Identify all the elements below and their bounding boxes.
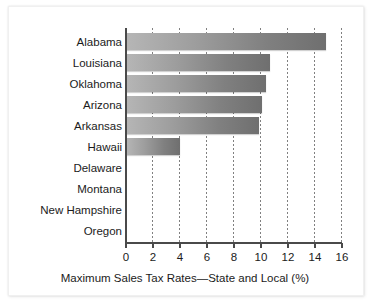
tick-label-2: 2	[141, 250, 165, 264]
category-label-oklahoma: Oklahoma	[6, 78, 122, 90]
tick-mark-12	[287, 243, 289, 248]
tick-label-6: 6	[195, 250, 219, 264]
gridline-16	[341, 28, 342, 242]
tick-label-10: 10	[249, 250, 273, 264]
tick-label-4: 4	[168, 250, 192, 264]
category-label-arkansas: Arkansas	[6, 120, 122, 132]
bar-chart: Alabama Louisiana Oklahoma Arizona Arkan…	[0, 0, 370, 307]
category-label-louisiana: Louisiana	[6, 57, 122, 69]
category-label-hawaii: Hawaii	[6, 141, 122, 153]
tick-mark-6	[206, 243, 208, 248]
category-label-new-hampshire: New Hampshire	[6, 204, 122, 216]
gridline-12	[287, 28, 288, 242]
tick-label-8: 8	[222, 250, 246, 264]
bar-hawaii	[126, 138, 180, 155]
tick-label-0: 0	[114, 250, 138, 264]
y-axis-line	[125, 28, 127, 243]
tick-label-16: 16	[330, 250, 354, 264]
chart-screenshot: Alabama Louisiana Oklahoma Arizona Arkan…	[0, 0, 370, 307]
tick-mark-0	[125, 243, 127, 248]
tick-mark-2	[152, 243, 154, 248]
category-label-delaware: Delaware	[6, 162, 122, 174]
tick-mark-16	[341, 243, 343, 248]
x-axis-title: Maximum Sales Tax Rates—State and Local …	[0, 272, 370, 284]
bar-alabama	[126, 33, 326, 50]
category-axis-labels: Alabama Louisiana Oklahoma Arizona Arkan…	[4, 0, 122, 240]
category-label-oregon: Oregon	[6, 225, 122, 237]
tick-mark-14	[314, 243, 316, 248]
gridline-14	[314, 28, 315, 242]
tick-label-14: 14	[303, 250, 327, 264]
tick-mark-8	[233, 243, 235, 248]
bar-arizona	[126, 96, 262, 113]
bar-oklahoma	[126, 75, 266, 92]
category-label-alabama: Alabama	[6, 36, 122, 48]
bar-arkansas	[126, 117, 259, 134]
tick-label-12: 12	[276, 250, 300, 264]
category-label-arizona: Arizona	[6, 99, 122, 111]
tick-mark-4	[179, 243, 181, 248]
tick-mark-10	[260, 243, 262, 248]
category-label-montana: Montana	[6, 183, 122, 195]
bar-louisiana	[126, 54, 270, 71]
